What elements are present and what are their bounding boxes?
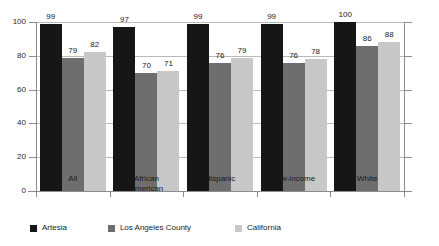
- y-tick-mark-left: [29, 56, 36, 57]
- x-category-label-line: African: [110, 174, 184, 184]
- legend-item[interactable]: California: [235, 224, 281, 232]
- x-category-label: Hispanic: [183, 174, 257, 184]
- legend-swatch-icon: [108, 225, 115, 232]
- x-category-label: All: [36, 174, 110, 184]
- bar-group: 1008688: [330, 22, 404, 191]
- y-tick-label: 20: [2, 153, 26, 161]
- bar-group-bars: 997678: [257, 22, 331, 191]
- x-tick-mark: [404, 192, 405, 197]
- y-tick-label: 40: [2, 119, 26, 127]
- bar-value-label: 86: [363, 35, 372, 43]
- bar[interactable]: 99: [261, 24, 283, 191]
- x-tick-mark: [257, 192, 258, 197]
- y-tick-mark-left: [29, 157, 36, 158]
- y-tick-label: 60: [2, 86, 26, 94]
- legend-item[interactable]: Los Angeles County: [108, 224, 191, 232]
- bar-value-label: 76: [216, 52, 225, 60]
- bar[interactable]: 100: [334, 22, 356, 191]
- y-tick-mark-right: [405, 123, 412, 124]
- bar-value-label: 97: [120, 16, 129, 24]
- y-tick-mark-left: [29, 191, 36, 192]
- bar-value-label: 100: [339, 11, 352, 19]
- bar-value-label: 76: [289, 52, 298, 60]
- x-tick-mark: [183, 192, 184, 197]
- bar[interactable]: 86: [356, 46, 378, 191]
- bar[interactable]: 76: [283, 63, 305, 191]
- bar[interactable]: 97: [113, 27, 135, 191]
- bar-group-bars: 977071: [110, 22, 184, 191]
- y-tick-label: 0: [2, 187, 26, 195]
- y-axis-line-left: [36, 22, 37, 192]
- x-category-label: White: [330, 174, 404, 184]
- y-axis-tick-labels: 020406080100: [0, 0, 26, 246]
- chart-legend: ArtesiaLos Angeles CountyCalifornia: [30, 224, 281, 232]
- bar-value-label: 82: [90, 41, 99, 49]
- bar-chart: 020406080100 997982977071997679997678100…: [0, 0, 439, 246]
- y-tick-label: 80: [2, 52, 26, 60]
- bar[interactable]: 88: [378, 42, 400, 191]
- legend-item[interactable]: Artesia: [30, 224, 67, 232]
- bar-group: 997678: [257, 22, 331, 191]
- y-tick-label: 100: [2, 18, 26, 26]
- bar-group: 977071: [110, 22, 184, 191]
- bar[interactable]: 82: [84, 52, 106, 191]
- x-category-label-line: Hispanic: [183, 174, 257, 184]
- x-category-label-line: American: [110, 184, 184, 194]
- bar-value-label: 88: [385, 31, 394, 39]
- y-tick-mark-left: [29, 90, 36, 91]
- x-tick-mark: [330, 192, 331, 197]
- bar-value-label: 71: [164, 60, 173, 68]
- bar[interactable]: 99: [187, 24, 209, 191]
- bar[interactable]: 99: [40, 24, 62, 191]
- bar[interactable]: 76: [209, 63, 231, 191]
- bar[interactable]: 71: [157, 71, 179, 191]
- bar-group-bars: 997679: [183, 22, 257, 191]
- y-tick-mark-right: [405, 22, 412, 23]
- bar-value-label: 79: [238, 47, 247, 55]
- bar[interactable]: 78: [305, 59, 327, 191]
- legend-swatch-icon: [30, 225, 37, 232]
- legend-label: California: [247, 224, 281, 232]
- plot-area: 9979829770719976799976781008688: [36, 22, 404, 191]
- bar-group: 997679: [183, 22, 257, 191]
- bar-value-label: 78: [311, 48, 320, 56]
- x-tick-mark: [36, 192, 37, 197]
- legend-swatch-icon: [235, 225, 242, 232]
- bar-value-label: 79: [68, 47, 77, 55]
- y-tick-mark-left: [29, 123, 36, 124]
- bar-value-label: 99: [46, 13, 55, 21]
- y-tick-mark-right: [405, 157, 412, 158]
- y-tick-mark-right: [405, 56, 412, 57]
- y-tick-mark-right: [405, 191, 412, 192]
- bar[interactable]: 79: [62, 58, 84, 192]
- bar-group: 997982: [36, 22, 110, 191]
- y-tick-mark-right: [405, 90, 412, 91]
- x-category-label-line: White: [330, 174, 404, 184]
- bar-group-bars: 997982: [36, 22, 110, 191]
- x-category-label: AfricanAmerican: [110, 174, 184, 194]
- y-axis-line-right: [404, 22, 405, 192]
- bar-value-label: 99: [194, 13, 203, 21]
- x-axis-line: [28, 191, 412, 192]
- x-category-label-line: All: [36, 174, 110, 184]
- y-tick-mark-left: [29, 22, 36, 23]
- bar[interactable]: 79: [231, 58, 253, 192]
- bar-group-bars: 1008688: [330, 22, 404, 191]
- legend-label: Los Angeles County: [120, 224, 191, 232]
- legend-label: Artesia: [42, 224, 67, 232]
- x-category-label-line: Low-income: [257, 174, 331, 184]
- x-category-label: Low-income: [257, 174, 331, 184]
- bar-value-label: 99: [267, 13, 276, 21]
- bar-value-label: 70: [142, 62, 151, 70]
